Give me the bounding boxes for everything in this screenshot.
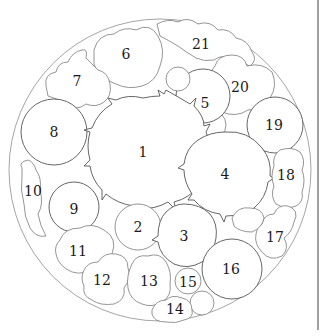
region-label-21: 21: [192, 36, 210, 52]
region-label-18: 18: [277, 167, 295, 183]
region-label-11: 11: [69, 243, 87, 259]
region-label-1: 1: [139, 144, 148, 160]
region-label-8: 8: [50, 124, 59, 140]
planting-diagram: 1 2 3 4 5 6 7 8 9 10 11 12 13 14 15 16 1…: [0, 0, 326, 336]
region-label-3: 3: [180, 228, 189, 244]
region-label-5: 5: [201, 95, 210, 111]
region-label-7: 7: [73, 73, 82, 89]
region-label-13: 13: [140, 273, 158, 289]
region-label-17: 17: [266, 229, 284, 245]
region-label-10: 10: [24, 183, 42, 199]
region-label-14: 14: [166, 301, 184, 317]
region-label-15: 15: [179, 274, 197, 290]
region-label-2: 2: [134, 219, 143, 235]
region-label-20: 20: [231, 79, 249, 95]
region-label-9: 9: [70, 201, 79, 217]
region-label-16: 16: [222, 261, 240, 277]
region-label-19: 19: [265, 117, 283, 133]
region-label-12: 12: [93, 272, 111, 288]
region-15-sub-shape: [190, 291, 214, 315]
region-label-6: 6: [122, 46, 131, 62]
region-5-sub-shape: [166, 67, 190, 91]
region-label-4: 4: [221, 166, 230, 182]
